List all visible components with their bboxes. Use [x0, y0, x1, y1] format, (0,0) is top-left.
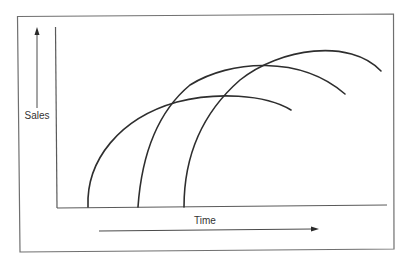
y-axis-label: Sales	[24, 110, 49, 121]
time-arrow-right-icon	[311, 227, 319, 232]
x-axis-label: Time	[194, 215, 216, 226]
time-arrow-shaft	[99, 229, 313, 231]
lifecycle-curve-2	[138, 65, 345, 207]
sales-over-time-diagram: Sales Time	[0, 0, 412, 262]
y-axis	[56, 27, 58, 208]
x-axis	[57, 205, 387, 208]
sales-arrow-up-icon	[35, 27, 40, 35]
lifecycle-curve-1	[88, 96, 291, 207]
